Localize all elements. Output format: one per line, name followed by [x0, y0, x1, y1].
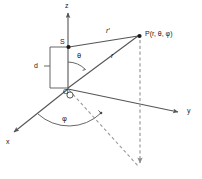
source-point-marker [66, 45, 70, 49]
origin-point-label: O [63, 88, 68, 95]
r-vector-label: r [111, 52, 113, 59]
theta-angle-arc [68, 62, 86, 70]
x-axis-label: x [6, 138, 10, 145]
z-axis-label: z [65, 2, 69, 9]
r-prime-vector-label: r′ [106, 27, 110, 34]
azimuth-arc-endpoint-marker [100, 112, 103, 115]
y-axis-label: y [187, 107, 191, 114]
r-prime-vector-line [69, 36, 138, 47]
theta-arc-tick [83, 70, 86, 71]
r-vector-line [68, 36, 138, 88]
d-dimension-bracket [50, 47, 68, 88]
phi-angle-arc [38, 113, 101, 126]
source-point-label: S [60, 38, 65, 45]
diagram-canvas [0, 0, 202, 179]
phi-angle-label: φ [62, 115, 67, 123]
field-point-marker [137, 34, 141, 38]
spherical-coordinates-diagram: z y x S O P(r, θ, φ) r′ r θ φ d [0, 0, 202, 179]
theta-angle-label: θ [77, 52, 81, 60]
y-axis-line [68, 89, 178, 112]
d-dimension-label: d [34, 62, 38, 69]
field-point-label: P(r, θ, φ) [145, 30, 173, 37]
